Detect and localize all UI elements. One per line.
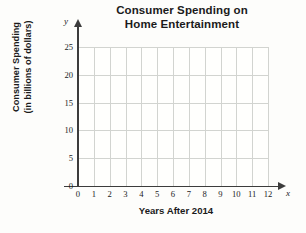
x-axis-tick-labels: 0123456789101112 bbox=[78, 189, 298, 203]
y-tick-label: 15 bbox=[51, 98, 73, 108]
y-axis-title-line-2: (in billions of dollars) bbox=[23, 2, 35, 132]
y-axis-title-line-1: Consumer Spending bbox=[11, 2, 23, 132]
gridline-vertical bbox=[189, 47, 190, 186]
y-tick-label: 25 bbox=[51, 42, 73, 52]
gridline-vertical bbox=[141, 47, 142, 186]
gridline-vertical bbox=[236, 47, 237, 186]
plot-area bbox=[78, 47, 268, 186]
gridline-horizontal bbox=[78, 103, 268, 104]
chart-title-line-1: Consumer Spending on bbox=[78, 4, 286, 18]
gridline-horizontal bbox=[78, 75, 268, 76]
gridline-vertical bbox=[173, 47, 174, 186]
chart-title: Consumer Spending on Home Entertainment bbox=[78, 4, 286, 31]
gridline-vertical bbox=[94, 47, 95, 186]
gridline-vertical bbox=[268, 47, 269, 186]
chart-title-line-2: Home Entertainment bbox=[78, 18, 286, 32]
x-tick-label: 12 bbox=[259, 189, 277, 199]
gridline-vertical bbox=[110, 47, 111, 186]
y-tick-label: 20 bbox=[51, 70, 73, 80]
gridline-vertical bbox=[221, 47, 222, 186]
y-axis-line bbox=[77, 26, 79, 187]
y-axis-arrow-icon bbox=[74, 19, 82, 27]
gridline-vertical bbox=[205, 47, 206, 186]
gridline-vertical bbox=[157, 47, 158, 186]
x-axis-title: Years After 2014 bbox=[78, 205, 274, 216]
y-tick-label: 5 bbox=[51, 153, 73, 163]
gridline-horizontal bbox=[78, 130, 268, 131]
chart-figure: Consumer Spending on Home Entertainment … bbox=[0, 0, 306, 233]
y-axis-title: Consumer Spending (in billions of dollar… bbox=[11, 2, 39, 132]
gridline-vertical bbox=[252, 47, 253, 186]
gridline-vertical bbox=[126, 47, 127, 186]
gridline-horizontal bbox=[78, 47, 268, 48]
gridline-horizontal bbox=[78, 158, 268, 159]
x-axis-line bbox=[64, 186, 280, 188]
y-tick-label: 10 bbox=[51, 125, 73, 135]
